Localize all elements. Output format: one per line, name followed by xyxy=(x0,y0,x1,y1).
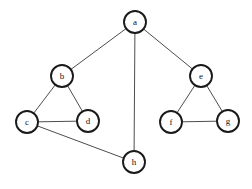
graph-node-f[interactable]: f xyxy=(160,111,182,133)
node-label-c: c xyxy=(25,117,29,127)
node-label-d: d xyxy=(86,116,91,126)
graph-node-c[interactable]: c xyxy=(16,111,38,133)
graph-edge-c-h xyxy=(37,126,123,158)
graph-edge-f-g xyxy=(182,121,217,122)
graph-node-d[interactable]: d xyxy=(77,110,99,132)
node-label-a: a xyxy=(133,17,137,27)
node-label-b: b xyxy=(60,71,65,81)
edge-layer xyxy=(34,29,223,159)
graph-canvas: abcdefgh xyxy=(0,0,252,189)
graph-node-h[interactable]: h xyxy=(123,151,145,173)
graph-node-a[interactable]: a xyxy=(124,11,146,33)
node-label-h: h xyxy=(132,157,137,167)
graph-edge-a-h xyxy=(134,33,135,151)
graph-node-e[interactable]: e xyxy=(190,65,212,87)
graph-node-g[interactable]: g xyxy=(217,110,239,132)
graph-edge-c-d xyxy=(38,121,77,122)
graph-edge-a-b xyxy=(71,29,126,70)
node-label-f: f xyxy=(170,117,173,127)
graph-edge-a-e xyxy=(144,29,193,69)
graph-edge-b-c xyxy=(34,85,56,114)
graph-node-b[interactable]: b xyxy=(51,65,73,87)
graph-edge-b-d xyxy=(68,86,83,112)
node-label-g: g xyxy=(226,116,231,126)
graph-edge-e-f xyxy=(177,85,195,113)
graph-edge-e-g xyxy=(207,85,223,111)
node-label-e: e xyxy=(199,71,203,81)
graph-diagram: abcdefgh xyxy=(0,0,252,189)
